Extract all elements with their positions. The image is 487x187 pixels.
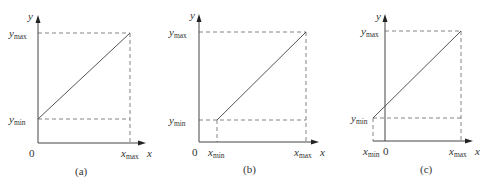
ymax-label-c: ymax <box>360 25 379 39</box>
data-line-b <box>217 32 306 120</box>
xmin-label-c: xmin <box>362 145 380 159</box>
y-axis-label-c: y <box>375 10 381 22</box>
caption-b: (b) <box>243 163 256 176</box>
panel-c: y ymax ymin xmin 0 xmax x (c) <box>350 10 480 176</box>
x-axis-label-b: x <box>319 146 325 158</box>
panel-b: y ymax ymin 0 xmin xmax x (b) <box>168 9 325 176</box>
caption-a: (a) <box>75 165 88 178</box>
ymax-label-b: ymax <box>168 26 187 40</box>
x-axis-label-a: x <box>146 147 152 159</box>
ymax-label-a: ymax <box>8 27 27 41</box>
y-axis-label-a: y <box>27 10 33 22</box>
x-axis-arrow-icon <box>311 140 319 145</box>
x-axis-arrow-icon <box>138 141 146 146</box>
y-axis-arrow-icon <box>197 14 202 22</box>
y-axis-arrow-icon <box>383 14 388 22</box>
xmax-label-c: xmax <box>448 145 467 159</box>
origin-label-b: 0 <box>192 146 198 158</box>
ymin-label-a: ymin <box>8 113 26 127</box>
ymin-label-b: ymin <box>168 114 186 128</box>
ymin-label-c: ymin <box>350 112 368 126</box>
y-axis-label-b: y <box>189 9 195 21</box>
xmax-label-b: xmax <box>293 146 312 160</box>
origin-label-a: 0 <box>29 147 35 159</box>
y-axis-arrow-icon <box>36 15 41 23</box>
x-axis-label-c: x <box>474 145 480 157</box>
caption-c: (c) <box>420 163 433 176</box>
data-line-c <box>373 31 461 118</box>
x-axis-arrow-icon <box>465 139 473 144</box>
origin-label-c: 0 <box>383 145 389 157</box>
panel-a: y ymax ymin 0 xmax x (a) <box>8 10 152 178</box>
figure-canvas: y ymax ymin 0 xmax x (a) y ymax ymin 0 x… <box>0 0 487 187</box>
xmax-label-a: xmax <box>120 147 139 161</box>
data-line-a <box>38 33 130 119</box>
xmin-label-b: xmin <box>207 146 225 160</box>
